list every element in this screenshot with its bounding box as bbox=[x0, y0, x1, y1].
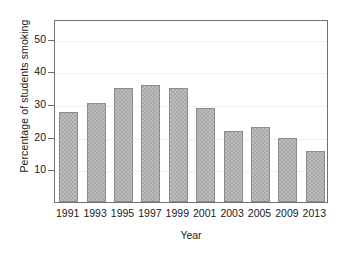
bar-2005 bbox=[251, 127, 270, 202]
x-tick-label-1997: 1997 bbox=[136, 207, 163, 219]
x-tick-label-2013: 2013 bbox=[301, 207, 328, 219]
bar-1997 bbox=[141, 85, 160, 202]
gridline-50 bbox=[55, 41, 327, 42]
gridline-40 bbox=[55, 73, 327, 74]
x-tick-label-2005: 2005 bbox=[246, 207, 273, 219]
plot-area bbox=[54, 20, 328, 203]
x-tick-label-2001: 2001 bbox=[191, 207, 218, 219]
bar-1991 bbox=[59, 112, 78, 202]
bar-1995 bbox=[114, 88, 133, 202]
x-tick-label-1999: 1999 bbox=[164, 207, 191, 219]
y-tick-label-50: 50 bbox=[18, 34, 46, 45]
bar-1993 bbox=[87, 103, 106, 202]
y-tick-label-10: 10 bbox=[18, 164, 46, 175]
x-tick-label-1993: 1993 bbox=[81, 207, 108, 219]
x-tick-label-1995: 1995 bbox=[109, 207, 136, 219]
y-tick-label-20: 20 bbox=[18, 132, 46, 143]
plot-inner bbox=[55, 21, 327, 202]
x-tick-label-2003: 2003 bbox=[218, 207, 245, 219]
x-axis-title: Year bbox=[54, 229, 328, 242]
bar-1999 bbox=[169, 88, 188, 202]
x-tick-label-1991: 1991 bbox=[54, 207, 81, 219]
bar-2003 bbox=[224, 131, 243, 202]
bar-2013 bbox=[306, 151, 325, 202]
x-tick-label-2009: 2009 bbox=[273, 207, 300, 219]
bar-2001 bbox=[196, 108, 215, 202]
bar-2009 bbox=[278, 138, 297, 202]
bar-chart: Percentage of students smoking 102030405… bbox=[0, 0, 346, 254]
y-tick-label-40: 40 bbox=[18, 66, 46, 77]
y-tick-label-30: 30 bbox=[18, 99, 46, 110]
